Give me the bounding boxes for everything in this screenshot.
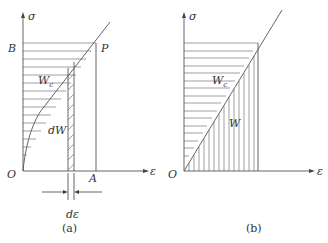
label-dw: dW: [48, 124, 68, 137]
caption-b: (b): [246, 222, 262, 235]
x-axis-arrow-icon-b: [309, 169, 315, 173]
strain-energy-hatching: [189, 43, 258, 171]
label-d-epsilon: dε: [66, 208, 79, 221]
label-wc-b: Wc: [212, 74, 227, 89]
y-axis-arrow-icon: [21, 12, 25, 18]
label-sigma-a: σ: [28, 10, 36, 23]
panel-a: σ B P Wc dW O A ε dε (a): [7, 10, 156, 235]
strain-increment-strip: [68, 62, 74, 171]
label-b: B: [7, 42, 16, 55]
label-sigma-b: σ: [189, 10, 197, 23]
label-epsilon-a: ε: [150, 165, 156, 178]
stress-strain-curve: [23, 22, 110, 171]
arrowhead-left-icon: [74, 190, 79, 194]
label-wc-a: Wc: [38, 74, 53, 89]
panel-b: σ Wc W O ε (b): [168, 10, 323, 235]
label-a: A: [88, 172, 97, 185]
label-epsilon-b: ε: [317, 165, 323, 178]
complementary-energy-hatching: [23, 43, 96, 155]
caption-a: (a): [62, 222, 77, 235]
y-axis-arrow-icon-b: [182, 12, 186, 18]
complementary-energy-hatching-b: [184, 43, 258, 156]
label-origin-b: O: [168, 168, 177, 181]
arrowhead-right-icon: [63, 190, 68, 194]
label-p: P: [100, 42, 109, 55]
label-w: W: [229, 117, 242, 130]
x-axis-arrow-icon: [143, 169, 149, 173]
label-origin-a: O: [7, 168, 16, 181]
diagram-canvas: σ B P Wc dW O A ε dε (a): [0, 0, 328, 243]
linear-stress-strain-line: [184, 10, 282, 171]
